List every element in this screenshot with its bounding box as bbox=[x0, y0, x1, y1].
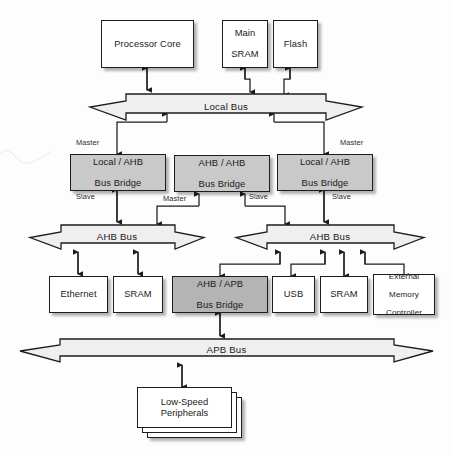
caption-master-right: Master bbox=[340, 138, 363, 147]
caption-master-mid: Master bbox=[163, 194, 186, 203]
bridge-left-label: Local / AHBBus Bridge bbox=[89, 157, 147, 189]
local-bus[interactable]: Local Bus bbox=[86, 90, 366, 124]
bridge-ahb-ahb-middle[interactable]: AHB / AHBBus Bridge bbox=[174, 155, 270, 192]
caption-slave-right: Slave bbox=[332, 192, 351, 201]
local-bus-label: Local Bus bbox=[86, 101, 366, 112]
bridge-local-ahb-left[interactable]: Local / AHBBus Bridge bbox=[70, 154, 166, 191]
peripheral-sram-right[interactable]: SRAM bbox=[320, 276, 368, 313]
ahb-bus-left[interactable]: AHB Bus bbox=[26, 222, 208, 253]
ahb-bus-right-label: AHB Bus bbox=[232, 231, 428, 242]
caption-slave-mid: Slave bbox=[249, 192, 268, 201]
usb-label: USB bbox=[282, 289, 306, 300]
main-sram-label: MainSRAM bbox=[227, 28, 263, 60]
apb-bus-label: APB Bus bbox=[16, 344, 437, 355]
peripheral-usb[interactable]: USB bbox=[272, 276, 315, 313]
ahb-bus-right[interactable]: AHB Bus bbox=[232, 222, 428, 253]
peripheral-sram-left[interactable]: SRAM bbox=[113, 276, 163, 313]
apb-bus[interactable]: APB Bus bbox=[16, 336, 437, 366]
caption-slave-left: Slave bbox=[76, 192, 95, 201]
sram-left-label: SRAM bbox=[122, 289, 154, 300]
sram-right-label: SRAM bbox=[328, 289, 360, 300]
external-memory-controller-label: ExternalMemoryController bbox=[382, 272, 426, 317]
peripheral-external-memory-controller[interactable]: ExternalMemoryController bbox=[373, 274, 435, 315]
soc-bus-architecture-diagram: Processor Core MainSRAM Flash Local Bus … bbox=[0, 0, 453, 456]
flash-label: Flash bbox=[282, 39, 309, 50]
ahb-apb-bridge-label: AHB / APBBus Bridge bbox=[193, 279, 248, 311]
ethernet-label: Ethernet bbox=[58, 289, 98, 300]
bridge-ahb-apb[interactable]: AHB / APBBus Bridge bbox=[172, 276, 268, 313]
bridge-middle-label: AHB / AHBBus Bridge bbox=[195, 158, 250, 190]
ahb-bus-left-label: AHB Bus bbox=[26, 231, 208, 242]
scan-artifact bbox=[0, 138, 58, 172]
bridge-right-label: Local / AHBBus Bridge bbox=[296, 157, 354, 189]
caption-master-left: Master bbox=[76, 138, 99, 147]
processor-core-label: Processor Core bbox=[112, 39, 183, 50]
peripheral-ethernet[interactable]: Ethernet bbox=[49, 276, 108, 313]
flash-box[interactable]: Flash bbox=[273, 20, 318, 68]
bridge-local-ahb-right[interactable]: Local / AHBBus Bridge bbox=[277, 154, 373, 191]
low-speed-peripherals-label: Low-SpeedPeripherals bbox=[161, 397, 208, 419]
low-speed-peripherals-stack[interactable]: Low-SpeedPeripherals bbox=[137, 387, 247, 439]
processor-core-box[interactable]: Processor Core bbox=[101, 20, 194, 68]
low-speed-card-front[interactable]: Low-SpeedPeripherals bbox=[137, 387, 232, 428]
main-sram-box[interactable]: MainSRAM bbox=[222, 20, 268, 68]
